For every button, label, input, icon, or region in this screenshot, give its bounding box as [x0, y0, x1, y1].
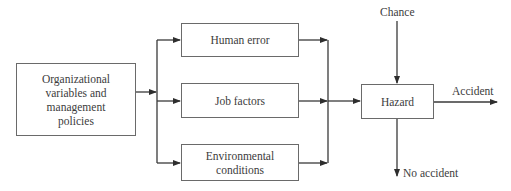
node-org-line-4: policies [42, 114, 110, 128]
node-env-line-1: Environmental [206, 149, 274, 163]
node-hazard: Hazard [361, 84, 434, 119]
label-no-accident: No accident [403, 167, 458, 179]
node-env-line-2: conditions [206, 163, 274, 177]
node-environmental-conditions: Environmental conditions [181, 144, 299, 181]
node-org-line-3: management [42, 100, 110, 114]
node-human-error-label: Human error [210, 33, 269, 47]
node-org-line-1: Organizational [42, 72, 110, 86]
node-job-factors-label: Job factors [215, 94, 265, 108]
node-human-error: Human error [181, 23, 299, 57]
node-organizational-variables: Organizational variables and management … [16, 63, 136, 136]
node-org-line-2: variables and [42, 86, 110, 100]
node-hazard-label: Hazard [381, 95, 414, 109]
node-job-factors: Job factors [181, 83, 299, 118]
label-chance: Chance [380, 6, 414, 18]
label-accident: Accident [452, 85, 494, 97]
